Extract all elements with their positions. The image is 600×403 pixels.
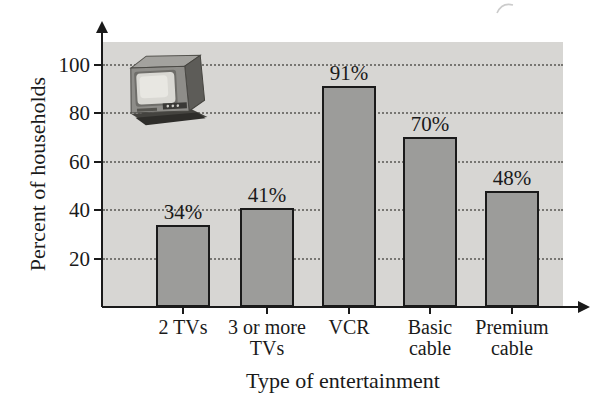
bar-chart: 2040608010034%2 TVs41%3 or moreTVs91%VCR… xyxy=(0,0,600,403)
y-axis-tick-60 xyxy=(94,161,103,163)
y-axis-tick-100 xyxy=(94,64,103,66)
bar-basic-cable xyxy=(403,137,457,307)
x-axis-tick-basic-cable xyxy=(429,307,431,314)
value-label-premium-cable: 48% xyxy=(467,165,557,191)
x-axis-line xyxy=(102,306,580,308)
x-axis-tick-2-tvs xyxy=(182,307,184,314)
category-label-premium-cable: Premiumcable xyxy=(452,317,572,359)
y-axis-tick-40 xyxy=(94,209,103,211)
x-axis-title: Type of entertainment xyxy=(143,368,543,394)
x-axis-arrow-icon xyxy=(578,301,590,313)
bar-vcr xyxy=(322,86,376,307)
y-tick-label-100: 100 xyxy=(36,52,90,78)
y-tick-label-40: 40 xyxy=(36,197,90,223)
y-tick-label-60: 60 xyxy=(36,149,90,175)
x-axis-tick-3-or-more-tvs xyxy=(266,307,268,314)
y-tick-label-80: 80 xyxy=(36,100,90,126)
bar-2-tvs xyxy=(156,225,210,307)
x-axis-tick-vcr xyxy=(348,307,350,314)
bar-3-or-more-tvs xyxy=(240,208,294,307)
y-axis-line xyxy=(101,28,103,307)
stray-mark xyxy=(494,0,516,16)
value-label-2-tvs: 34% xyxy=(138,199,228,225)
value-label-vcr: 91% xyxy=(304,60,394,86)
y-tick-label-20: 20 xyxy=(36,246,90,272)
x-axis-tick-premium-cable xyxy=(511,307,513,314)
y-axis-tick-20 xyxy=(94,258,103,260)
y-axis-arrow-icon xyxy=(96,21,108,33)
y-axis-tick-80 xyxy=(94,112,103,114)
value-label-3-or-more-tvs: 41% xyxy=(222,182,312,208)
tv-icon xyxy=(124,48,216,132)
value-label-basic-cable: 70% xyxy=(385,111,475,137)
bar-premium-cable xyxy=(485,191,539,307)
